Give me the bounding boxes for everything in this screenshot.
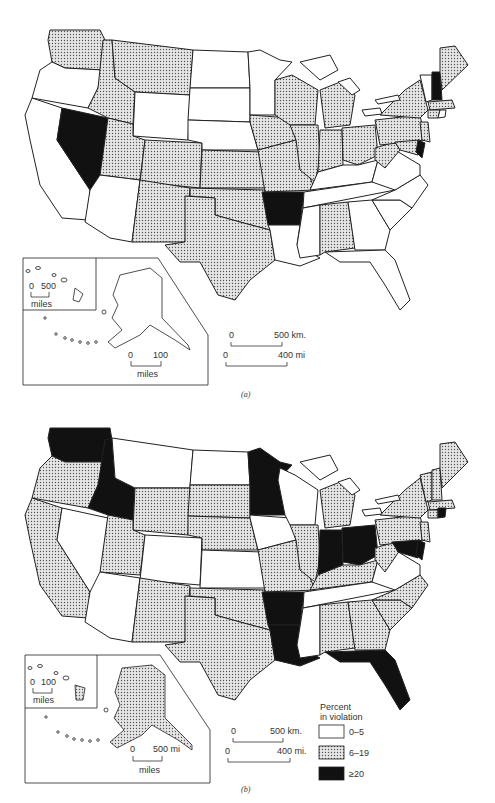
state-oh: [342, 125, 378, 165]
state-co: [140, 140, 202, 188]
state-ma: [428, 100, 455, 110]
main-scale-mi-zero-a: 0: [223, 350, 228, 360]
state-co: [140, 535, 202, 585]
state-nd: [190, 450, 250, 485]
legend-swatch-white: [319, 725, 344, 738]
main-scale-km-max-a: 500 km.: [274, 330, 306, 340]
alaska-scale-zero-b: 0: [130, 744, 135, 754]
main-scale-mi-zero-b: 0: [225, 746, 230, 756]
state-nj: [420, 522, 430, 542]
alaska-scale-zero-a: 0: [128, 350, 133, 360]
main-scale-km-zero-a: 0: [229, 330, 234, 340]
alaska-scale-max-a: 100: [153, 350, 168, 360]
hawaii-scale-unit-a: miles: [31, 299, 53, 309]
state-ri: [438, 508, 446, 518]
state-sd: [188, 88, 250, 122]
main-scale-km-max-b: 500 km.: [270, 726, 302, 736]
legend-label-2: ≥20: [349, 769, 364, 779]
state-fl: [325, 650, 410, 710]
state-ks: [200, 550, 265, 588]
main-scale-km-zero-b: 0: [231, 726, 236, 736]
state-oh: [342, 525, 378, 565]
hawaii-scale-unit-b: miles: [33, 695, 55, 705]
state-sd: [188, 485, 250, 518]
map-b: 0 100 miles 0 500 mi miles 0 500 km. 0 4…: [0, 400, 495, 803]
hawaii-scale-zero-a: 0: [29, 281, 34, 291]
caption-b: (b): [241, 785, 251, 794]
state-ar: [262, 592, 304, 625]
alaska-scale-max-b: 500 mi: [153, 744, 180, 754]
state-wi: [275, 75, 318, 125]
state-mt: [112, 438, 193, 488]
map-a: 0 500 miles 0 100 miles 0 500 km. 0 400 …: [0, 0, 495, 400]
state-fl: [325, 250, 410, 310]
legend: Percent in violation 0–5 6–19 ≥20: [319, 702, 369, 780]
state-wy: [133, 92, 190, 140]
state-me: [440, 46, 468, 90]
legend-label-0: 0–5: [349, 727, 364, 737]
legend-title-line2: in violation: [320, 712, 363, 722]
state-nm: [132, 578, 190, 642]
state-nm: [132, 180, 190, 242]
hawaii-scale-max-a: 500: [41, 281, 56, 291]
state-wy: [133, 488, 190, 535]
hawaii-scale-max-b: 100: [41, 677, 56, 687]
state-wi: [278, 468, 318, 525]
state-ar: [262, 192, 304, 225]
legend-swatch-black: [319, 767, 344, 780]
state-me: [440, 442, 468, 488]
alaska-scale-unit-b: miles: [139, 765, 161, 775]
caption-a: (a): [241, 390, 251, 399]
hawaii-scale-zero-b: 0: [30, 677, 35, 687]
legend-label-1: 6–19: [349, 748, 369, 758]
state-az: [85, 175, 140, 242]
main-scale-mi-max-b: 400 mi.: [277, 746, 307, 756]
state-ri: [438, 110, 446, 118]
state-ks: [200, 150, 265, 188]
main-scale-mi-max-a: 400 mi: [278, 350, 305, 360]
legend-title-line1: Percent: [320, 702, 352, 712]
legend-swatch-dotted: [319, 746, 344, 759]
state-nj: [420, 122, 430, 142]
alaska-scale-unit-a: miles: [137, 369, 159, 379]
state-ct: [428, 510, 438, 518]
state-nd: [190, 50, 250, 88]
